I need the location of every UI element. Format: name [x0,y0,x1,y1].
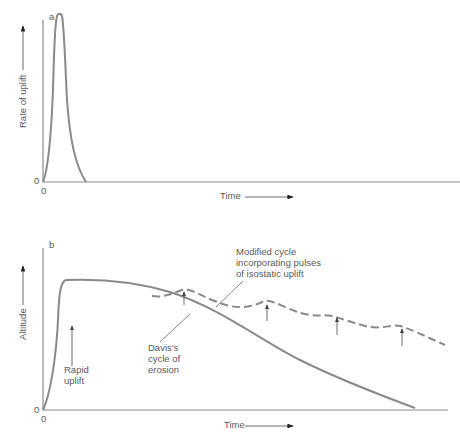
panel-a-letter: a [49,12,54,23]
davis-cycle-curve [43,280,415,410]
davis-line-3: erosion [148,365,180,376]
panel-a-origin-x: 0 [41,186,46,197]
panel-b-origin-x: 0 [41,414,46,425]
panel-b-x-label: Time [224,420,245,431]
rapid-uplift-label: Rapid uplift [64,365,89,387]
panel-b-origin-y: 0 [34,405,39,416]
modified-leader-line [216,281,243,307]
panel-b-letter: b [49,240,54,251]
modified-cycle-curve [152,290,445,345]
panel-a-origin-y: 0 [34,176,39,187]
modified-line-3: of isostatic uplift [236,269,321,280]
rapid-uplift-line-2: uplift [64,376,89,387]
davis-leader-line [160,314,190,342]
modified-cycle-label: Modified cycle incorporating pulses of i… [236,247,321,280]
panel-a-y-label: Rate of uplift [17,75,28,128]
davis-cycle-label: Davis's cycle of erosion [148,343,180,376]
uplift-rate-curve [43,14,86,182]
panel-a-axes [43,20,460,182]
panel-a-x-label: Time [220,191,241,202]
panel-b-y-label: Altitude [17,308,28,340]
